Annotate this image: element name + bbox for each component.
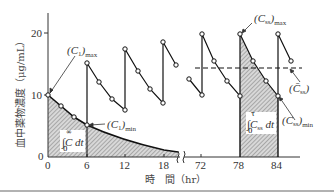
axis-break-icon xyxy=(177,151,185,163)
css-min-label: (Css)min xyxy=(282,114,314,129)
auc-steady-state-area xyxy=(240,34,278,157)
x-axis-label: 時 間（hr） xyxy=(145,174,206,185)
c1-min-label: (C1)min xyxy=(107,118,137,133)
x-tick-72: 72 xyxy=(195,159,206,171)
repeated-dose-line-segment2 xyxy=(189,34,291,96)
svg-text:τ: τ xyxy=(251,110,255,118)
svg-text:∞: ∞ xyxy=(66,128,72,136)
svg-text:0: 0 xyxy=(248,127,252,135)
svg-text:0: 0 xyxy=(63,145,67,153)
y-tick-0: 0 xyxy=(38,150,44,162)
x-tick-0: 0 xyxy=(45,159,51,171)
css-max-label: (Css)max xyxy=(254,12,287,27)
x-tick-18: 18 xyxy=(158,159,170,171)
x-tick-78: 78 xyxy=(233,159,245,171)
x-tick-6: 6 xyxy=(84,159,90,171)
x-tick-12: 12 xyxy=(119,159,130,171)
y-axis-label: 血中薬物濃度（μg/mL） xyxy=(14,36,26,148)
css-average-label: (C̄ss) xyxy=(289,82,309,96)
y-tick-10: 10 xyxy=(31,89,43,101)
pk-chart: 20 10 0 0 6 12 18 72 78 84 時 間（hr） 血中薬物濃… xyxy=(0,0,334,195)
y-tick-20: 20 xyxy=(31,27,43,39)
c1-max-label: (C1)max xyxy=(67,44,98,59)
x-tick-84: 84 xyxy=(271,159,283,171)
